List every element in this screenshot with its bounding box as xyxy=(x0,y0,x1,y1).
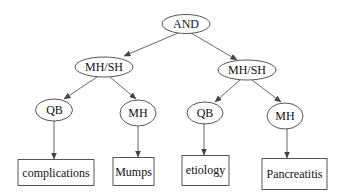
edge-left-mhsh-to-mh xyxy=(110,77,136,99)
node-left-mhsh-label: MH/SH xyxy=(75,61,133,73)
node-left-qb-label: QB xyxy=(36,104,73,116)
leaf-pancreatitis-label: Pancreatitis xyxy=(262,168,327,180)
edge-right-mhsh-to-qb xyxy=(215,80,240,102)
edge-left-mhsh-to-qb xyxy=(64,77,97,99)
edge-and-to-right-mhsh xyxy=(191,33,237,60)
node-right-qb-label: QB xyxy=(187,107,223,119)
node-right-mh-label: MH xyxy=(267,110,303,122)
node-left-mh-label: MH xyxy=(120,107,156,119)
edge-and-to-left-mhsh xyxy=(124,33,178,56)
node-and-label: AND xyxy=(162,18,210,30)
edge-right-mhsh-to-mh xyxy=(252,80,281,102)
leaf-etiology-label: etiology xyxy=(182,164,229,176)
leaf-mumps-label: Mumps xyxy=(113,166,154,178)
node-right-mhsh-label: MH/SH xyxy=(218,64,276,76)
leaf-complications-label: complications xyxy=(18,167,94,179)
query-tree-diagram: AND MH/SH MH/SH QB MH QB MH complication… xyxy=(0,0,345,196)
